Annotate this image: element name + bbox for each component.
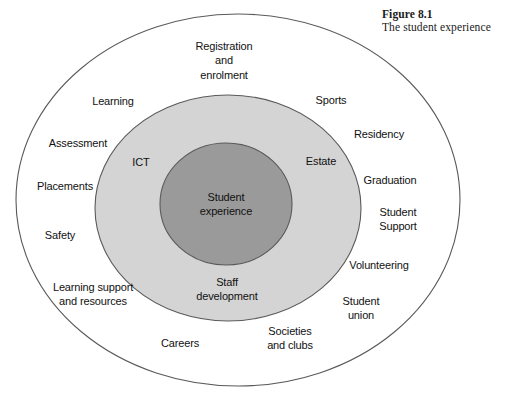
label-ict: ICT bbox=[132, 155, 149, 169]
label-careers: Careers bbox=[161, 336, 199, 350]
label-student-union: Student union bbox=[343, 294, 380, 323]
label-assessment: Assessment bbox=[49, 136, 107, 150]
label-societies-and-clubs: Societies and clubs bbox=[267, 324, 313, 353]
label-estate: Estate bbox=[306, 154, 336, 168]
label-staff-development: Staff development bbox=[196, 275, 257, 304]
label-graduation: Graduation bbox=[364, 173, 417, 187]
label-learning: Learning bbox=[92, 94, 134, 108]
figure-page: Figure 8.1 The student experience Studen… bbox=[0, 0, 530, 400]
label-registration-and-enrolment: Registration and enrolment bbox=[196, 39, 253, 82]
label-safety: Safety bbox=[45, 228, 75, 242]
label-placements: Placements bbox=[37, 179, 93, 193]
label-student-support: Student Support bbox=[379, 205, 416, 234]
label-volunteering: Volunteering bbox=[349, 258, 408, 272]
concentric-ellipse-diagram bbox=[0, 0, 530, 400]
label-sports: Sports bbox=[316, 93, 347, 107]
label-student-experience: Student experience bbox=[200, 190, 252, 219]
label-learning-support-and-resources: Learning support and resources bbox=[53, 280, 133, 309]
label-residency: Residency bbox=[354, 127, 404, 141]
